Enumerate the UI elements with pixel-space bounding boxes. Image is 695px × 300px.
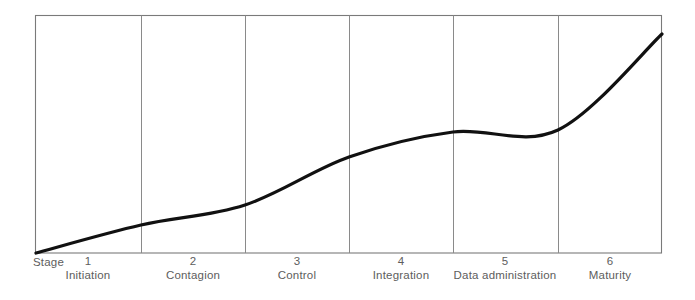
stage-growth-chart: Stage 1 Initiation 2 Contagion 3 Control…: [0, 0, 695, 300]
chart-canvas: [0, 0, 695, 300]
plot-frame: [36, 16, 662, 254]
